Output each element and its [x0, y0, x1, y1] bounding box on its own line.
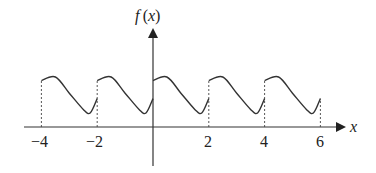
- tick-label-4: 4: [260, 134, 268, 150]
- tick-label-neg2: −2: [86, 134, 103, 150]
- tick-label-2: 2: [204, 134, 212, 150]
- tick-label-neg4: −4: [31, 134, 48, 150]
- tick-label-6: 6: [316, 134, 324, 150]
- y-axis-label: f (x): [135, 8, 160, 24]
- dashed-guides: [41, 81, 320, 127]
- function-curve: [41, 76, 320, 113]
- chart: f (x) x −4 −2 2 4 6: [0, 0, 376, 173]
- x-axis-label: x: [350, 119, 357, 135]
